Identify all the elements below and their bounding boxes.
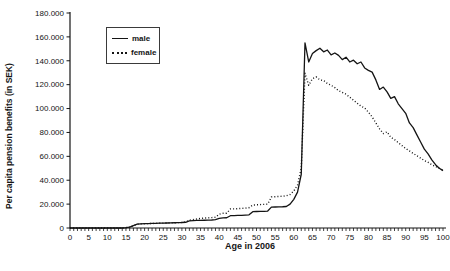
svg-text:180.000: 180.000 (35, 9, 64, 18)
svg-text:40.000: 40.000 (40, 176, 65, 185)
legend-label-male: male (132, 35, 150, 43)
svg-text:140.000: 140.000 (35, 57, 64, 66)
male-series-line (70, 43, 443, 228)
female-line-sample-icon (112, 52, 127, 54)
female-series-line (70, 73, 443, 228)
svg-text:120.000: 120.000 (35, 80, 64, 89)
legend-label-female: female (131, 49, 156, 57)
svg-text:20.000: 20.000 (40, 200, 65, 209)
chart-canvas: 020.00040.00060.00080.000100.000120.0001… (0, 0, 450, 271)
svg-text:100.000: 100.000 (35, 104, 64, 113)
y-axis-title: Per capita pension benefits (in SEK) (4, 63, 14, 209)
svg-text:80.000: 80.000 (40, 128, 65, 137)
male-line-sample-icon (112, 38, 128, 39)
svg-text:160.000: 160.000 (35, 33, 64, 42)
svg-text:100: 100 (436, 233, 450, 242)
svg-text:0: 0 (60, 224, 65, 233)
legend-item-female: female (112, 49, 159, 57)
legend-item-male: male (112, 35, 159, 43)
svg-text:60.000: 60.000 (40, 152, 65, 161)
x-axis-title: Age in 2006 (70, 241, 430, 251)
pension-benefits-chart: 020.00040.00060.00080.000100.000120.0001… (0, 0, 450, 271)
legend: male female (106, 27, 160, 64)
